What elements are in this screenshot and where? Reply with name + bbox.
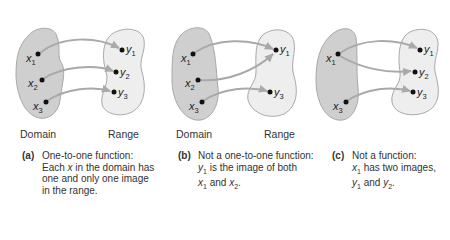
caption-tag-b: (b) [178, 150, 191, 162]
caption-b: (b) Not a one-to-one function: y1 is the… [178, 150, 314, 193]
caption-line: y1 is the image of both [198, 162, 314, 178]
panel-a-diagram: x1 x2 x3 y1 y2 y3 Domain Range [16, 28, 144, 140]
point-x1 [191, 52, 196, 57]
caption-line: y1 and y2. [352, 177, 436, 193]
point-y2 [413, 70, 418, 75]
caption-line: x1 has two images, [352, 162, 436, 178]
panel-c-diagram: x1 x3 y1 y2 y3 [316, 29, 438, 120]
caption-line: Not a one-to-one function: [198, 150, 314, 162]
point-x2 [40, 78, 45, 83]
point-y3 [268, 90, 273, 95]
caption-line: in the range. [42, 185, 154, 197]
point-x3 [200, 100, 205, 105]
point-y3 [112, 90, 117, 95]
point-y3 [411, 90, 416, 95]
caption-tag-a: (a) [22, 150, 34, 162]
point-x3 [44, 100, 49, 105]
point-y1 [418, 48, 423, 53]
range-label-a: Range [108, 128, 139, 140]
point-y1 [274, 48, 279, 53]
caption-line: x1 and x2. [198, 177, 314, 193]
caption-c: (c) Not a function: x1 has two images, y… [332, 150, 436, 193]
domain-label-a: Domain [20, 128, 56, 140]
point-y1 [120, 48, 125, 53]
point-x1 [36, 52, 41, 57]
caption-line: Not a function: [352, 150, 436, 162]
caption-line: Each x in the domain has [42, 162, 154, 174]
caption-tag-c: (c) [332, 150, 344, 162]
caption-line: One-to-one function: [42, 150, 154, 162]
point-x3 [344, 100, 349, 105]
point-y2 [114, 70, 119, 75]
domain-label-b: Domain [176, 128, 212, 140]
panel-b-diagram: x1 x2 x3 y1 y3 Domain Range [172, 28, 296, 140]
caption-a: (a) One-to-one function: Each x in the d… [22, 150, 154, 196]
point-x2 [196, 78, 201, 83]
range-label-b: Range [264, 128, 295, 140]
point-x1 [336, 52, 341, 57]
caption-line: one and only one image [42, 173, 154, 185]
